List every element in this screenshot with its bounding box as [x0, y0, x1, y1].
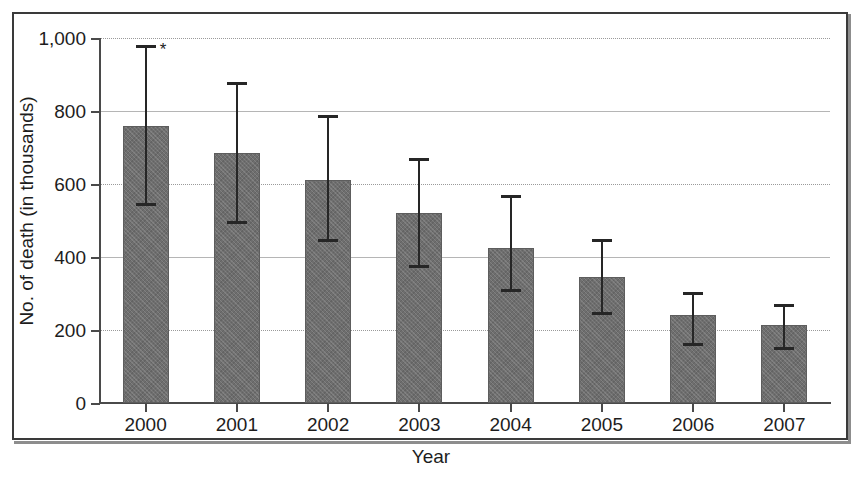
error-bar-cap-lower-2000: [136, 203, 156, 206]
error-bar-stem-2002: [327, 115, 329, 243]
figure-border-shadow-bottom: [14, 441, 850, 444]
significance-marker-2000: *: [160, 41, 167, 58]
y-tick-400: [91, 257, 100, 259]
error-bar-cap-upper-2000: [136, 45, 156, 48]
error-bar-cap-upper-2003: [409, 158, 429, 161]
x-tick-label-2005: 2005: [557, 415, 647, 434]
x-tick-label-2007: 2007: [739, 415, 829, 434]
y-tick-1000: [91, 38, 100, 40]
x-tick-label-2002: 2002: [283, 415, 373, 434]
x-tick-2000: [145, 404, 147, 412]
gridline-1000: [100, 38, 830, 39]
gridline-600: [100, 184, 830, 185]
y-tick-label-200: 200: [14, 321, 86, 340]
error-bar-stem-2004: [510, 195, 512, 292]
error-bar-stem-2003: [418, 158, 420, 268]
x-tick-2002: [327, 404, 329, 412]
y-tick-label-600: 600: [14, 175, 86, 194]
error-bar-cap-lower-2006: [683, 343, 703, 346]
error-bar-cap-upper-2006: [683, 292, 703, 295]
x-tick-2003: [418, 404, 420, 412]
y-tick-800: [91, 111, 100, 113]
y-tick-label-1000: 1,000: [14, 29, 86, 48]
error-bar-cap-upper-2005: [592, 239, 612, 242]
y-tick-200: [91, 330, 100, 332]
y-tick-label-400: 400: [14, 248, 86, 267]
error-bar-cap-upper-2001: [227, 82, 247, 85]
x-tick-2007: [783, 404, 785, 412]
x-tick-2001: [236, 404, 238, 412]
x-tick-label-2000: 2000: [101, 415, 191, 434]
x-tick-label-2003: 2003: [374, 415, 464, 434]
x-tick-2004: [510, 404, 512, 412]
error-bar-cap-lower-2004: [501, 289, 521, 292]
gridline-800: [100, 111, 830, 112]
error-bar-cap-lower-2002: [318, 239, 338, 242]
error-bar-cap-upper-2004: [501, 195, 521, 198]
error-bar-cap-lower-2001: [227, 221, 247, 224]
gridline-200: [100, 330, 830, 331]
error-bar-cap-lower-2007: [774, 347, 794, 350]
error-bar-stem-2000: [145, 45, 147, 206]
error-bar-stem-2005: [601, 239, 603, 316]
y-axis-line: [99, 38, 101, 404]
error-bar-stem-2007: [783, 304, 785, 350]
error-bar-cap-lower-2005: [592, 312, 612, 315]
error-bar-cap-upper-2002: [318, 115, 338, 118]
y-tick-0: [91, 403, 100, 405]
x-axis-line: [99, 402, 831, 404]
error-bar-cap-lower-2003: [409, 265, 429, 268]
x-tick-2006: [692, 404, 694, 412]
x-tick-label-2006: 2006: [648, 415, 738, 434]
x-tick-2005: [601, 404, 603, 412]
x-tick-label-2004: 2004: [466, 415, 556, 434]
x-axis-title: Year: [0, 446, 862, 468]
figure-root: 02004006008001,000 200020012002200320042…: [0, 0, 862, 477]
figure-border-shadow-right: [848, 14, 851, 444]
x-tick-label-2001: 2001: [192, 415, 282, 434]
error-bar-cap-upper-2007: [774, 304, 794, 307]
y-tick-600: [91, 184, 100, 186]
y-tick-label-0: 0: [14, 394, 86, 413]
y-tick-label-800: 800: [14, 102, 86, 121]
error-bar-stem-2006: [692, 292, 694, 347]
error-bar-stem-2001: [236, 82, 238, 224]
gridline-400: [100, 257, 830, 258]
